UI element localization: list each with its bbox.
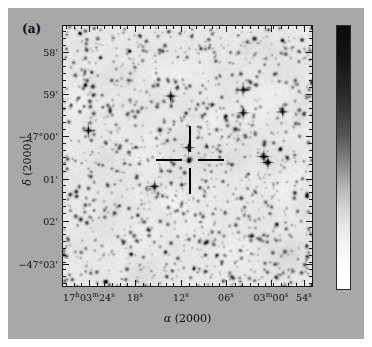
y-tick-minor-left bbox=[62, 206, 66, 207]
x-tick-major-top-4 bbox=[271, 25, 272, 32]
y-tick-minor-left bbox=[62, 150, 66, 151]
x-tick-minor-bottom bbox=[219, 283, 220, 287]
y-tick-minor-left bbox=[62, 31, 66, 32]
y-tick-major-right-5 bbox=[306, 264, 313, 265]
x-tick-minor-top bbox=[250, 25, 251, 29]
x-tick-minor-top bbox=[150, 25, 151, 29]
y-tick-minor-right bbox=[309, 38, 313, 39]
y-tick-minor-left bbox=[62, 241, 66, 242]
x-tick-minor-bottom bbox=[189, 283, 190, 287]
x-tick-minor-top bbox=[74, 25, 75, 29]
x-tick-minor-top bbox=[196, 25, 197, 29]
y-tick-minor-right bbox=[309, 101, 313, 102]
x-tick-major-bottom-0 bbox=[89, 280, 90, 287]
y-tick-minor-right bbox=[309, 283, 313, 284]
x-tick-minor-bottom bbox=[112, 283, 113, 287]
x-tick-minor-bottom bbox=[212, 283, 213, 287]
y-tick-minor-left bbox=[62, 157, 66, 158]
y-tick-minor-left bbox=[62, 143, 66, 144]
y-tick-minor-right bbox=[309, 80, 313, 81]
x-tick-major-top-1 bbox=[135, 25, 136, 32]
y-tick-minor-right bbox=[309, 192, 313, 193]
x-tick-minor-bottom bbox=[250, 283, 251, 287]
x-tick-minor-bottom bbox=[265, 283, 266, 287]
x-tick-minor-bottom bbox=[242, 283, 243, 287]
x-tick-minor-top bbox=[158, 25, 159, 29]
y-tick-label-4: 02' bbox=[43, 216, 58, 227]
y-tick-minor-left bbox=[62, 192, 66, 193]
y-axis-title: δ (2000) bbox=[21, 103, 34, 223]
x-tick-label-4: 03m00s bbox=[253, 292, 288, 303]
y-tick-minor-left bbox=[62, 101, 66, 102]
x-tick-major-top-5 bbox=[304, 25, 305, 32]
y-axis-epoch: (2000) bbox=[21, 139, 34, 176]
y-tick-minor-left bbox=[62, 164, 66, 165]
x-tick-label-3: 06s bbox=[218, 292, 234, 303]
x-tick-label-0: 17h03m24s bbox=[63, 292, 115, 303]
x-tick-minor-bottom bbox=[204, 283, 205, 287]
y-tick-minor-right bbox=[309, 66, 313, 67]
x-tick-minor-bottom bbox=[196, 283, 197, 287]
y-tick-minor-right bbox=[309, 157, 313, 158]
x-tick-label-2: 12s bbox=[173, 292, 189, 303]
x-tick-minor-top bbox=[97, 25, 98, 29]
y-tick-major-right-4 bbox=[306, 221, 313, 222]
x-tick-minor-top bbox=[273, 25, 274, 29]
x-tick-minor-top bbox=[235, 25, 236, 29]
figure-panel: (a) 17h03m24s18s12s06s03m00s54s58'59'−47… bbox=[0, 0, 372, 347]
y-tick-minor-right bbox=[309, 122, 313, 123]
x-tick-label-5: 54s bbox=[296, 292, 312, 303]
y-tick-major-left-2 bbox=[62, 136, 69, 137]
y-tick-minor-right bbox=[309, 276, 313, 277]
x-tick-minor-bottom bbox=[120, 283, 121, 287]
x-tick-minor-top bbox=[296, 25, 297, 29]
x-tick-minor-bottom bbox=[104, 283, 105, 287]
y-tick-minor-left bbox=[62, 276, 66, 277]
y-tick-minor-right bbox=[309, 255, 313, 256]
y-tick-minor-right bbox=[309, 73, 313, 74]
y-tick-minor-right bbox=[309, 171, 313, 172]
x-tick-minor-top bbox=[66, 25, 67, 29]
x-axis-symbol: α bbox=[164, 312, 171, 325]
x-tick-minor-bottom bbox=[173, 283, 174, 287]
y-tick-minor-left bbox=[62, 283, 66, 284]
y-tick-minor-left bbox=[62, 38, 66, 39]
y-tick-minor-left bbox=[62, 213, 66, 214]
y-tick-minor-right bbox=[309, 143, 313, 144]
y-tick-minor-right bbox=[309, 199, 313, 200]
y-tick-minor-left bbox=[62, 87, 66, 88]
x-tick-minor-bottom bbox=[288, 283, 289, 287]
y-tick-minor-right bbox=[309, 115, 313, 116]
y-tick-minor-left bbox=[62, 262, 66, 263]
x-tick-major-top-3 bbox=[226, 25, 227, 32]
y-tick-major-left-0 bbox=[62, 52, 69, 53]
y-tick-minor-right bbox=[309, 262, 313, 263]
starfield-image bbox=[63, 26, 312, 286]
x-tick-minor-bottom bbox=[158, 283, 159, 287]
y-tick-minor-right bbox=[309, 129, 313, 130]
x-tick-minor-top bbox=[265, 25, 266, 29]
x-tick-label-1: 18s bbox=[127, 292, 143, 303]
y-tick-minor-left bbox=[62, 234, 66, 235]
y-tick-major-left-3 bbox=[62, 179, 69, 180]
x-tick-minor-bottom bbox=[150, 283, 151, 287]
x-tick-minor-top bbox=[104, 25, 105, 29]
y-tick-minor-left bbox=[62, 122, 66, 123]
y-tick-major-right-3 bbox=[306, 179, 313, 180]
y-tick-minor-left bbox=[62, 248, 66, 249]
x-tick-minor-top bbox=[173, 25, 174, 29]
y-tick-label-1: 59' bbox=[43, 89, 58, 100]
y-tick-minor-left bbox=[62, 66, 66, 67]
y-tick-minor-right bbox=[309, 206, 313, 207]
y-tick-minor-right bbox=[309, 150, 313, 151]
y-tick-minor-left bbox=[62, 129, 66, 130]
x-tick-minor-bottom bbox=[127, 283, 128, 287]
x-tick-major-bottom-5 bbox=[304, 280, 305, 287]
y-tick-minor-right bbox=[309, 234, 313, 235]
y-tick-minor-left bbox=[62, 255, 66, 256]
y-tick-minor-right bbox=[309, 227, 313, 228]
x-tick-minor-top bbox=[143, 25, 144, 29]
x-tick-minor-bottom bbox=[143, 283, 144, 287]
x-tick-major-bottom-4 bbox=[271, 280, 272, 287]
y-tick-major-right-0 bbox=[306, 52, 313, 53]
